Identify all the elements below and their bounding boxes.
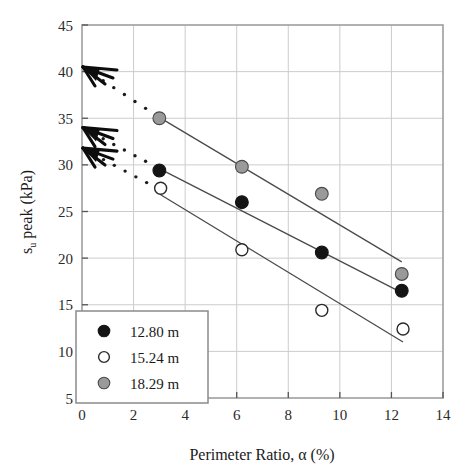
legend-label: 12.80 m	[130, 324, 180, 340]
x-axis-tick-label: 10	[332, 407, 347, 423]
x-axis-title: Perimeter Ratio, α (%)	[189, 446, 334, 464]
extrapolation-dot	[112, 143, 115, 146]
x-axis-tick-label: 6	[233, 407, 241, 423]
legend-marker-open-circle	[99, 352, 110, 363]
extrapolation-dot	[145, 181, 148, 184]
y-axis-tick-label: 30	[58, 157, 73, 173]
extrapolation-dot	[144, 107, 147, 110]
x-axis-tick-label: 2	[130, 407, 138, 423]
su-peak-vs-perimeter-ratio-chart: 51015202530354045 02468101214 12.80 m15.…	[0, 0, 473, 475]
x-axis-tick-label: 12	[384, 407, 399, 423]
legend-marker-filled-circle	[98, 325, 110, 337]
y-axis-tick-label: 10	[58, 344, 73, 360]
y-axis-tick-label: 35	[58, 111, 73, 127]
data-point-marker	[316, 304, 328, 316]
y-axis-tick-label: 20	[58, 251, 73, 267]
extrapolation-dot	[101, 137, 104, 140]
y-axis-tick-label: 25	[58, 204, 73, 220]
data-point-marker	[153, 164, 166, 177]
data-point-marker	[235, 160, 248, 173]
data-point-marker	[153, 112, 166, 125]
extrapolation-dot	[133, 154, 136, 157]
y-axis-tick-label: 40	[58, 64, 73, 80]
extrapolation-dot	[123, 169, 126, 172]
y-axis-tick-labels: 51015202530354045	[58, 18, 73, 407]
y-axis-tick-label: 15	[58, 297, 73, 313]
chart-figure: 51015202530354045 02468101214 12.80 m15.…	[0, 0, 473, 475]
chart-legend: 12.80 m15.24 m18.29 m	[76, 311, 208, 403]
x-axis-tick-label: 14	[436, 407, 452, 423]
legend-label: 15.24 m	[130, 350, 180, 366]
extrapolation-dot	[112, 86, 115, 89]
y-axis-tick-label: 45	[58, 18, 73, 34]
data-point-marker	[235, 196, 248, 209]
data-point-marker	[395, 268, 408, 281]
extrapolation-dot	[113, 164, 116, 167]
extrapolation-dot	[134, 175, 137, 178]
data-point-marker	[155, 182, 167, 194]
extrapolation-dot	[144, 160, 147, 163]
legend-marker-gray-circle	[98, 377, 110, 389]
extrapolation-dot	[102, 158, 105, 161]
data-point-marker	[315, 246, 328, 259]
extrapolation-dot	[123, 93, 126, 96]
extrapolation-dot	[123, 148, 126, 151]
x-axis-tick-label: 8	[285, 407, 293, 423]
legend-label: 18.29 m	[130, 376, 180, 392]
y-axis-tick-label: 5	[66, 391, 74, 407]
x-axis-tick-label: 4	[181, 407, 189, 423]
x-axis-tick-label: 0	[78, 407, 86, 423]
data-point-marker	[315, 187, 328, 200]
data-point-marker	[395, 284, 408, 297]
extrapolation-dot	[133, 100, 136, 103]
data-point-marker	[397, 323, 409, 335]
data-point-marker	[236, 244, 248, 256]
y-axis-title-main: peak (kPa)	[18, 170, 36, 243]
